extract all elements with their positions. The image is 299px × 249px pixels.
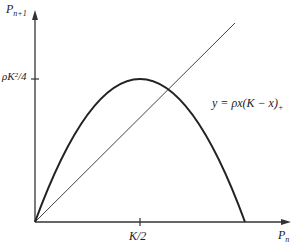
x-tick-label: K/2 xyxy=(129,229,146,244)
curve-label: y = ρx(K − x)+ xyxy=(212,96,283,112)
diagonal-line xyxy=(35,23,235,222)
plot-area xyxy=(0,0,299,249)
y-axis-label: Pn+1 xyxy=(6,2,27,18)
x-axis-arrow-icon xyxy=(281,219,291,225)
y-tick-label: ρK²/4 xyxy=(2,70,26,82)
y-axis-arrow-icon xyxy=(32,10,38,20)
cobweb-diagram: Pn+1 ρK²/4 K/2 Pn y = ρx(K − x)+ xyxy=(0,0,299,249)
x-axis-label: Pn xyxy=(278,228,289,244)
